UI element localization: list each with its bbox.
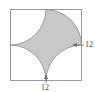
geometry-figure: 12 12 — [0, 0, 95, 92]
dimension-label-bottom: 12 — [41, 84, 49, 92]
dimension-label-right: 12 — [85, 41, 93, 49]
geometry-diagram-canvas — [0, 0, 95, 92]
